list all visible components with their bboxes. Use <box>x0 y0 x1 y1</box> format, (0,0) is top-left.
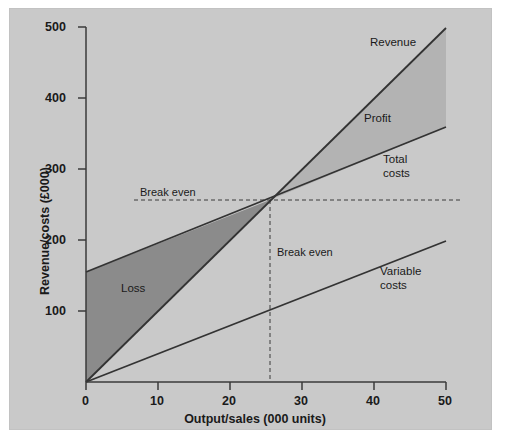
y-tick-label-500: 500 <box>45 20 66 34</box>
annotation-break-even-vertical: Break even <box>277 246 333 258</box>
revenue-line <box>86 28 446 382</box>
region-label-loss: Loss <box>121 282 145 294</box>
y-tick-label-100: 100 <box>45 304 66 318</box>
x-tick-label-20: 20 <box>222 394 236 408</box>
total-costs-line <box>86 127 446 272</box>
x-tick-label-50: 50 <box>438 394 452 408</box>
x-axis-label: Output/sales (000 units) <box>0 412 510 426</box>
series-label-variable-costs: Variable costs <box>380 265 421 292</box>
series-label-total-costs: Total costs <box>383 153 410 180</box>
x-tick-label-0: 0 <box>82 394 89 408</box>
series-label-variable-costs-line2: costs <box>380 279 421 293</box>
series-label-total-costs-line1: Total <box>383 153 410 167</box>
x-tick-label-10: 10 <box>150 394 164 408</box>
series-label-revenue: Revenue <box>370 36 416 50</box>
break-even-chart-figure: 500 400 300 200 100 0 10 20 30 40 50 Out… <box>0 0 510 444</box>
y-tick-label-400: 400 <box>45 91 66 105</box>
series-label-total-costs-line2: costs <box>383 167 410 181</box>
chart-plot-area <box>0 0 510 444</box>
region-label-profit: Profit <box>364 112 391 124</box>
annotation-break-even-horizontal: Break even <box>140 186 196 198</box>
x-tick-label-40: 40 <box>366 394 380 408</box>
y-axis-label: Revenue/costs (£000) <box>38 167 52 295</box>
x-tick-label-30: 30 <box>294 394 308 408</box>
series-label-variable-costs-line1: Variable <box>380 265 421 279</box>
